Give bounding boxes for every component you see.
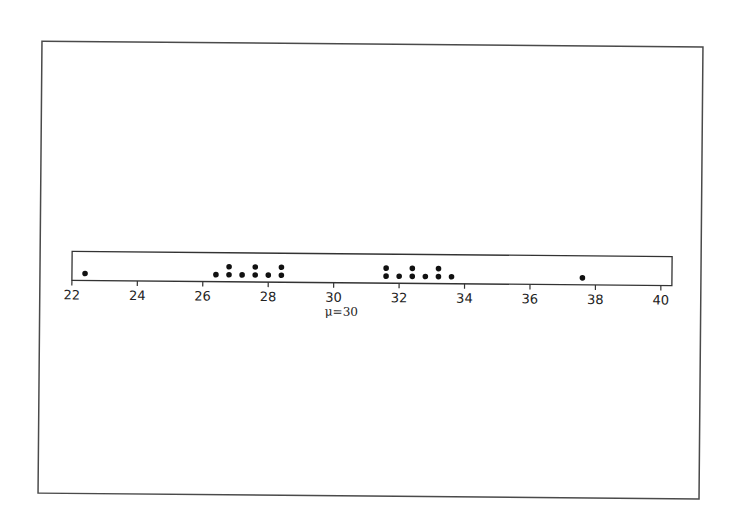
data-point	[410, 266, 416, 272]
data-points	[82, 263, 585, 281]
data-point	[265, 272, 271, 278]
outer-frame	[38, 41, 703, 499]
data-point	[252, 264, 258, 270]
data-point	[226, 264, 232, 270]
dot-plot-chart: 22242628303234363840 μ=30	[0, 0, 736, 521]
data-point	[383, 265, 389, 271]
x-tick-label: 24	[129, 288, 146, 303]
data-point	[226, 272, 232, 278]
data-point	[396, 273, 402, 279]
data-point	[279, 264, 285, 270]
x-tick-label: 32	[391, 290, 408, 305]
x-tick-label: 28	[260, 289, 277, 304]
data-point	[436, 266, 442, 272]
data-point	[436, 274, 442, 280]
data-point	[279, 272, 285, 278]
x-tick-label: 34	[456, 291, 473, 306]
data-point	[423, 274, 429, 280]
x-tick-label: 40	[652, 292, 669, 307]
x-tick-label: 38	[587, 292, 604, 307]
data-point	[252, 272, 258, 278]
x-tick-label: 26	[194, 288, 211, 303]
data-point	[409, 274, 415, 280]
data-point	[213, 272, 219, 278]
x-tick-label: 30	[325, 290, 342, 305]
x-tick-label: 36	[522, 291, 539, 306]
data-point	[383, 273, 389, 279]
data-point	[239, 272, 245, 278]
data-point	[449, 274, 455, 280]
mean-annotation: μ=30	[325, 305, 358, 319]
x-tick-label: 22	[63, 287, 80, 302]
data-point	[82, 271, 88, 277]
data-point	[580, 275, 586, 281]
